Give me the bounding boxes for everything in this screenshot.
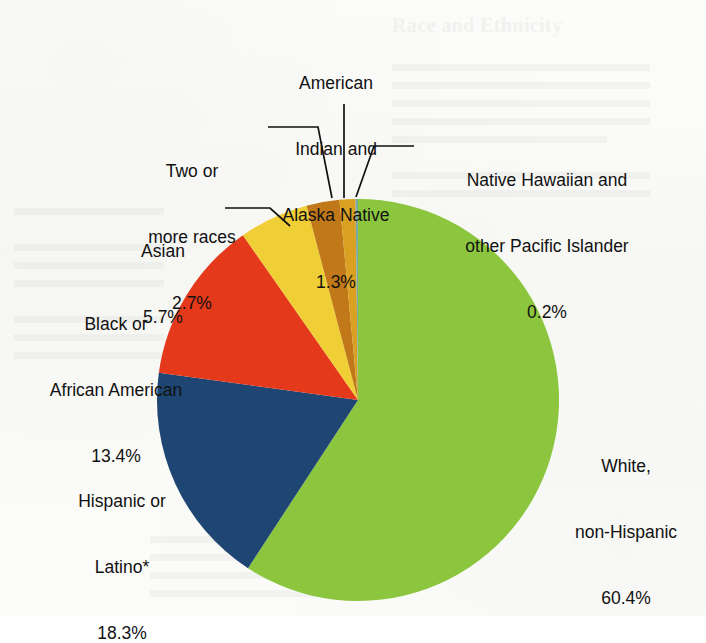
pie-label-line-2: Latino* — [46, 556, 198, 578]
pie-label-white-non-hispanic: White, non-Hispanic 60.4% — [556, 411, 696, 643]
pie-label-line-1: White, — [556, 455, 696, 477]
pie-value-native-hawaiian-and-other-pacific-islander: 0.2% — [416, 301, 678, 323]
pie-label-hispanic-or-latino: Hispanic or Latino* 18.3% — [46, 446, 198, 643]
pie-label-line-1: Asian — [102, 240, 224, 262]
pie-label-line-1: Two or — [116, 160, 268, 182]
pie-label-line-2: African American — [16, 379, 216, 401]
pie-label-native-hawaiian-and-other-pacific-islander: Native Hawaiian and other Pacific Island… — [416, 125, 678, 368]
pie-label-line-1: Hispanic or — [46, 490, 198, 512]
pie-label-line-1: Black or — [16, 313, 216, 335]
pie-label-line-1: Native Hawaiian and — [416, 169, 678, 191]
pie-label-line-1: American — [236, 72, 436, 94]
pie-label-line-2: other Pacific Islander — [416, 235, 678, 257]
pie-value-hispanic-or-latino: 18.3% — [46, 622, 198, 643]
pie-label-line-2: non-Hispanic — [556, 521, 696, 543]
pie-value-white-non-hispanic: 60.4% — [556, 587, 696, 609]
